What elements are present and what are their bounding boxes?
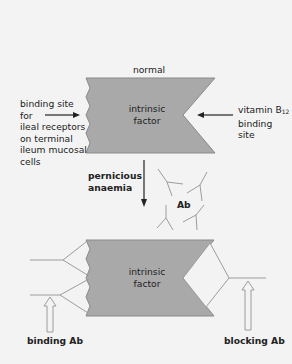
arrow-left-icon bbox=[197, 112, 233, 118]
antibody-label: Ab bbox=[177, 199, 191, 211]
binding-antibody-label: binding Ab bbox=[27, 335, 83, 347]
diagram-canvas bbox=[0, 0, 292, 364]
binding-antibody bbox=[30, 242, 89, 313]
ileal-receptor-binding-site-label: binding site for ileal receptors on term… bbox=[20, 98, 87, 168]
pernicious-anaemia-label: pernicious anaemia bbox=[88, 170, 142, 193]
intrinsic-factor-label-top: intrinsic factor bbox=[112, 103, 182, 126]
blocking-antibody-label: blocking Ab bbox=[224, 335, 285, 347]
hollow-arrow-up-icon bbox=[242, 281, 254, 330]
vitamin-b12-binding-site-label: vitamin B12 binding site bbox=[238, 104, 289, 141]
intrinsic-factor-label-bottom: intrinsic factor bbox=[112, 266, 182, 289]
hollow-arrow-up-icon bbox=[44, 297, 56, 332]
normal-label: normal bbox=[124, 64, 174, 76]
